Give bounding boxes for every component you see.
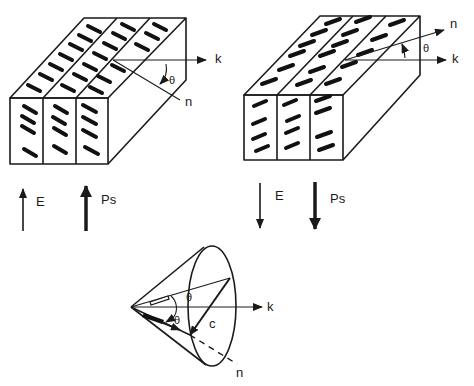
left-top-molecules bbox=[28, 24, 166, 93]
right-theta-arc bbox=[402, 44, 405, 58]
right-k-label: k bbox=[452, 51, 459, 66]
left-n-label: n bbox=[185, 94, 192, 109]
left-front-molecules bbox=[22, 105, 98, 156]
left-theta-label: θ bbox=[169, 74, 175, 86]
cone-theta-outer-label: θ bbox=[186, 291, 192, 303]
right-cell-block: θ k n bbox=[244, 16, 459, 160]
cone-n-dashed bbox=[190, 335, 237, 364]
cone-theta-inner-label: θ bbox=[174, 314, 180, 326]
right-e-label: E bbox=[275, 188, 284, 203]
right-n-label: n bbox=[450, 16, 457, 31]
cone-n-label: n bbox=[236, 365, 243, 380]
cone-k-label: k bbox=[267, 299, 274, 314]
left-side-face bbox=[108, 18, 186, 164]
right-top-molecules bbox=[262, 17, 404, 85]
diagram-canvas: θ k n E Ps bbox=[0, 0, 474, 386]
left-ps-label: Ps bbox=[101, 192, 117, 207]
right-n-arrow bbox=[345, 30, 444, 60]
cone-c-label: c bbox=[209, 316, 216, 331]
molecular-cone: k c n θ θ bbox=[131, 246, 274, 380]
right-ps-label: Ps bbox=[330, 191, 346, 206]
left-cell-block: θ k n bbox=[10, 18, 222, 164]
right-field-arrows: E Ps bbox=[260, 182, 346, 229]
left-k-label: k bbox=[215, 51, 222, 66]
left-theta-arc bbox=[160, 64, 166, 84]
left-e-label: E bbox=[36, 194, 45, 209]
left-field-arrows: E Ps bbox=[23, 186, 117, 231]
right-theta-label: θ bbox=[423, 42, 429, 54]
right-front-molecules bbox=[253, 96, 333, 151]
cone-molecule-outline bbox=[150, 296, 169, 305]
